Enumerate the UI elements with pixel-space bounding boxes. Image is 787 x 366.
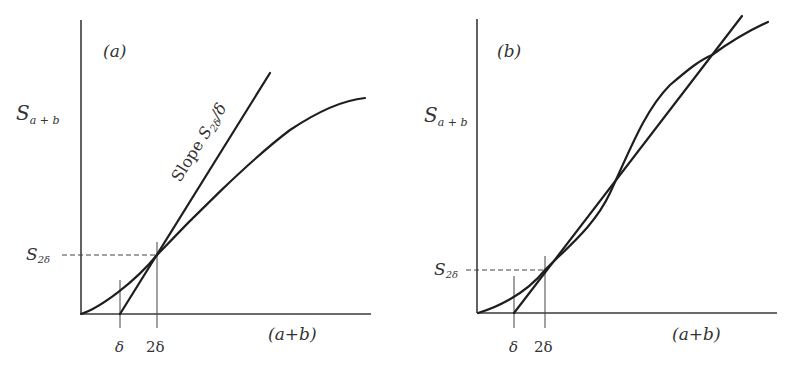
s2delta-label-b: S2δ: [434, 259, 458, 280]
s-curve-b: [478, 22, 768, 313]
delta-tick-label-a: δ: [115, 338, 124, 356]
slope-line-a: [120, 73, 270, 314]
two-delta-tick-label-a: 2δ: [146, 338, 165, 356]
s-curve-a: [81, 98, 365, 314]
x-axis-label-a: (a+b): [268, 324, 317, 344]
y-axis-label-a: Sa + b: [16, 101, 60, 127]
panel-b: (b) Sa + b S2δ δ 2δ (a+b): [424, 16, 777, 356]
figure-canvas: (a) Sa + b S2δ δ 2δ (a+b) Slope S2δ/δ (b…: [0, 0, 787, 366]
s2delta-label-a: S2δ: [26, 244, 50, 265]
panel-label-b: (b): [497, 41, 521, 61]
panel-label-a: (a): [103, 41, 126, 61]
slope-annotation-a: Slope S2δ/δ: [167, 100, 231, 186]
delta-tick-label-b: δ: [509, 338, 518, 356]
y-axis-label-b: Sa + b: [424, 103, 468, 129]
panel-a: (a) Sa + b S2δ δ 2δ (a+b) Slope S2δ/δ: [16, 20, 371, 356]
two-delta-tick-label-b: 2δ: [534, 338, 553, 356]
x-axis-label-b: (a+b): [672, 324, 721, 344]
slope-line-b: [514, 16, 742, 313]
